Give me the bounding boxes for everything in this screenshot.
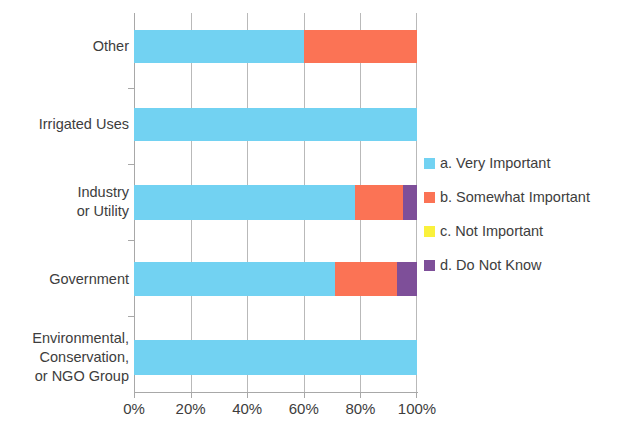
legend-item[interactable]: d. Do Not Know (424, 257, 629, 291)
y-axis-label: Government (0, 270, 129, 289)
bar-segment[interactable] (355, 185, 403, 220)
x-tick-mark-80 (360, 392, 361, 398)
x-axis-tick-label: 0% (104, 400, 164, 417)
y-axis-label: Other (0, 37, 129, 56)
y-tick-mark-2 (128, 164, 134, 165)
bar-group (134, 30, 417, 63)
legend-item[interactable]: b. Somewhat Important (424, 189, 629, 223)
plot-area (134, 13, 417, 392)
legend-swatch-icon (424, 260, 435, 271)
legend-label: c. Not Important (440, 223, 543, 239)
bar-group (134, 340, 417, 375)
y-axis-label: Industry or Utility (0, 183, 129, 221)
bar-segment[interactable] (134, 108, 417, 141)
x-axis-tick-label: 60% (274, 400, 334, 417)
legend-label: a. Very Important (440, 155, 550, 171)
bar-group (134, 108, 417, 141)
legend-swatch-icon (424, 158, 435, 169)
x-tick-mark-20 (191, 392, 192, 398)
bar-segment[interactable] (134, 262, 335, 296)
y-tick-mark-3 (128, 240, 134, 241)
y-axis-label: Irrigated Uses (0, 115, 129, 134)
chart-legend: a. Very Importantb. Somewhat Importantc.… (424, 155, 629, 291)
x-tick-mark-0 (134, 392, 135, 398)
x-axis-tick-label: 100% (387, 400, 447, 417)
y-axis-label: Environmental, Conservation, or NGO Grou… (0, 329, 129, 386)
legend-label: d. Do Not Know (440, 257, 542, 273)
x-tick-mark-100 (416, 392, 417, 398)
x-axis-tick-label: 80% (330, 400, 390, 417)
bar-group (134, 262, 417, 296)
legend-swatch-icon (424, 192, 435, 203)
bar-segment[interactable] (134, 340, 417, 375)
bar-group (134, 185, 417, 220)
y-tick-mark-4 (128, 316, 134, 317)
x-axis-tick-label: 20% (161, 400, 221, 417)
x-axis-tick-label: 40% (217, 400, 277, 417)
legend-item[interactable]: a. Very Important (424, 155, 629, 189)
x-tick-mark-60 (304, 392, 305, 398)
legend-item[interactable]: c. Not Important (424, 223, 629, 257)
bar-segment[interactable] (134, 30, 304, 63)
bar-segment[interactable] (304, 30, 417, 63)
x-tick-mark-40 (247, 392, 248, 398)
stacked-bar-chart: OtherIrrigated UsesIndustry or UtilityGo… (0, 0, 631, 432)
legend-label: b. Somewhat Important (440, 189, 590, 205)
bar-segment[interactable] (397, 262, 417, 296)
bar-segment[interactable] (403, 185, 417, 220)
bar-segment[interactable] (335, 262, 397, 296)
y-tick-mark-1 (128, 88, 134, 89)
legend-swatch-icon (424, 226, 435, 237)
bar-segment[interactable] (134, 185, 355, 220)
x-axis-line (134, 392, 418, 393)
